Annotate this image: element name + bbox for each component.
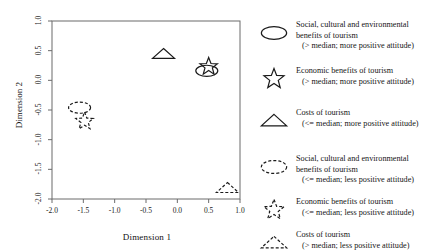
legend-item-label: Costs of tourism(> median; less positive… bbox=[296, 230, 409, 251]
legend-item-label: Economic benefits of tourism(<= median; … bbox=[296, 197, 414, 218]
y-tick-label: -1.5 bbox=[34, 159, 43, 179]
star-dashed-icon bbox=[252, 197, 296, 223]
x-axis-title: Dimension 1 bbox=[52, 232, 242, 242]
x-tick-label: -1.5 bbox=[77, 206, 89, 215]
tick-marks bbox=[48, 21, 240, 203]
correspondence-analysis-figure: -2.0-1.5-1.0-0.50.00.51.0 1.00.50.0-0.5-… bbox=[0, 0, 445, 252]
x-tick-label: -1.0 bbox=[109, 206, 121, 215]
data-markers bbox=[69, 48, 239, 192]
x-tick-label: 0.0 bbox=[173, 206, 182, 215]
legend-item-label: Social, cultural and environmentalbenefi… bbox=[296, 154, 414, 186]
y-tick-label: -0.5 bbox=[34, 100, 43, 120]
x-tick-label: 1.0 bbox=[235, 206, 244, 215]
legend-item-label: Economic benefits of tourism(> median; m… bbox=[296, 66, 414, 87]
legend-item: Social, cultural and environmentalbenefi… bbox=[252, 20, 414, 52]
legend-item: Social, cultural and environmentalbenefi… bbox=[252, 154, 414, 186]
legend-line: (<= median; less positive attitude) bbox=[296, 175, 414, 186]
legend-item: Economic benefits of tourism(<= median; … bbox=[252, 197, 414, 223]
ellipse-solid-icon bbox=[252, 20, 296, 46]
data-point-social-low bbox=[69, 102, 91, 113]
data-point-costs-high bbox=[216, 183, 238, 193]
legend-line: (<= median; more positive attitude) bbox=[296, 119, 419, 130]
y-tick-label: 1.0 bbox=[34, 11, 43, 31]
triangle-dashed-icon bbox=[252, 230, 296, 252]
legend-line: Social, cultural and environmental bbox=[296, 154, 414, 165]
y-tick-label: 0.5 bbox=[34, 40, 43, 60]
legend-line: benefits of tourism bbox=[296, 31, 414, 42]
legend-line: Costs of tourism bbox=[296, 108, 419, 119]
legend-item-label: Social, cultural and environmentalbenefi… bbox=[296, 20, 414, 52]
data-point-costs-low bbox=[153, 48, 175, 58]
plot-frame bbox=[52, 21, 240, 199]
legend-item-label: Costs of tourism(<= median; more positiv… bbox=[296, 108, 419, 129]
y-tick-label: -2.0 bbox=[34, 189, 43, 209]
legend-item: Costs of tourism(<= median; more positiv… bbox=[252, 108, 419, 134]
y-tick-label: 0.0 bbox=[34, 70, 43, 90]
y-axis-title: Dimension 2 bbox=[14, 50, 24, 160]
ellipse-dashed-icon bbox=[252, 154, 296, 180]
x-tick-label: -2.0 bbox=[46, 206, 58, 215]
x-tick-label: -0.5 bbox=[140, 206, 152, 215]
legend-line: Costs of tourism bbox=[296, 230, 409, 241]
legend-line: Social, cultural and environmental bbox=[296, 20, 414, 31]
legend-line: (> median; more positive attitude) bbox=[296, 41, 414, 52]
plot-area: -2.0-1.5-1.0-0.50.00.51.0 1.00.50.0-0.5-… bbox=[0, 0, 250, 252]
data-point-economic-low bbox=[76, 112, 94, 129]
legend-line: benefits of tourism bbox=[296, 165, 414, 176]
legend-line: (> median; more positive attitude) bbox=[296, 77, 414, 88]
triangle-solid-icon bbox=[252, 108, 296, 134]
legend: Social, cultural and environmentalbenefi… bbox=[252, 8, 445, 248]
legend-line: (> median; less positive attitude) bbox=[296, 241, 409, 252]
legend-line: Economic benefits of tourism bbox=[296, 197, 414, 208]
legend-item: Economic benefits of tourism(> median; m… bbox=[252, 66, 414, 92]
legend-line: (<= median; less positive attitude) bbox=[296, 208, 414, 219]
legend-line: Economic benefits of tourism bbox=[296, 66, 414, 77]
y-tick-label: -1.0 bbox=[34, 129, 43, 149]
star-solid-icon bbox=[252, 66, 296, 92]
x-tick-label: 0.5 bbox=[204, 206, 213, 215]
legend-item: Costs of tourism(> median; less positive… bbox=[252, 230, 409, 252]
